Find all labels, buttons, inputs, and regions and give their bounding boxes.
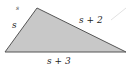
corner-mark-label: s — [16, 5, 19, 11]
triangle-shape — [5, 8, 126, 52]
faint-guide-line — [111, 8, 126, 20]
triangle-diagram: s s s + 2 s + 3 — [0, 0, 128, 75]
left-side-label: s — [12, 21, 17, 30]
base-label: s + 3 — [47, 57, 71, 66]
hypotenuse-label: s + 2 — [79, 16, 103, 25]
